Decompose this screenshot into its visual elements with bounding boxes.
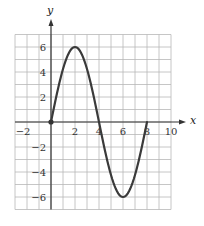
x-tick-label: 6	[120, 126, 126, 137]
y-tick-label: −6	[31, 192, 46, 203]
x-tick-label: 2	[72, 126, 78, 137]
y-axis-arrow-icon	[49, 19, 54, 26]
y-tick-label: −2	[31, 142, 46, 153]
x-axis-arrow-icon	[179, 120, 186, 125]
x-tick-label: −2	[16, 126, 31, 137]
y-tick-label: 6	[40, 42, 46, 53]
x-tick-label: 10	[165, 126, 178, 137]
origin-point-marker	[48, 119, 53, 124]
x-axis-label: x	[190, 114, 197, 127]
y-tick-label: −4	[31, 167, 46, 178]
y-tick-label: 2	[40, 92, 46, 103]
y-tick-label: 4	[40, 67, 46, 78]
y-axis-label: y	[46, 4, 54, 17]
sine-chart: −2246810642−2−4−6 x y	[0, 0, 204, 226]
